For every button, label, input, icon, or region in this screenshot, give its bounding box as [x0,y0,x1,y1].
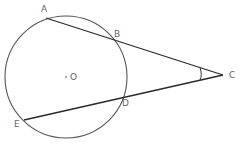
label-e: E [14,119,20,129]
center-dot-o [65,76,67,78]
label-a: A [41,4,48,14]
secant-ac [46,18,223,75]
geometry-diagram: A B C D E O [0,0,245,151]
label-o: O [70,72,77,82]
label-c: C [229,70,235,80]
label-d: D [122,98,129,108]
label-b: B [114,29,120,39]
angle-mark-c [200,68,201,81]
